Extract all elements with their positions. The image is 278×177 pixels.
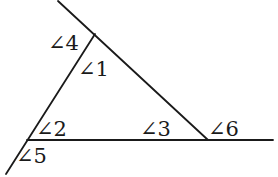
angle-2-label: ∠2 (36, 117, 67, 141)
angle-1-label: ∠1 (78, 57, 109, 81)
angle-5-label: ∠5 (16, 144, 47, 168)
triangle-angle-diagram: ∠4 ∠1 ∠2 ∠3 ∠6 ∠5 (0, 0, 278, 177)
angle-6-label: ∠6 (208, 117, 239, 141)
angle-3-label: ∠3 (140, 117, 171, 141)
angle-4-label: ∠4 (48, 31, 79, 55)
